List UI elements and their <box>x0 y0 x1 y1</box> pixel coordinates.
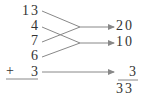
connector-lines <box>0 0 144 99</box>
